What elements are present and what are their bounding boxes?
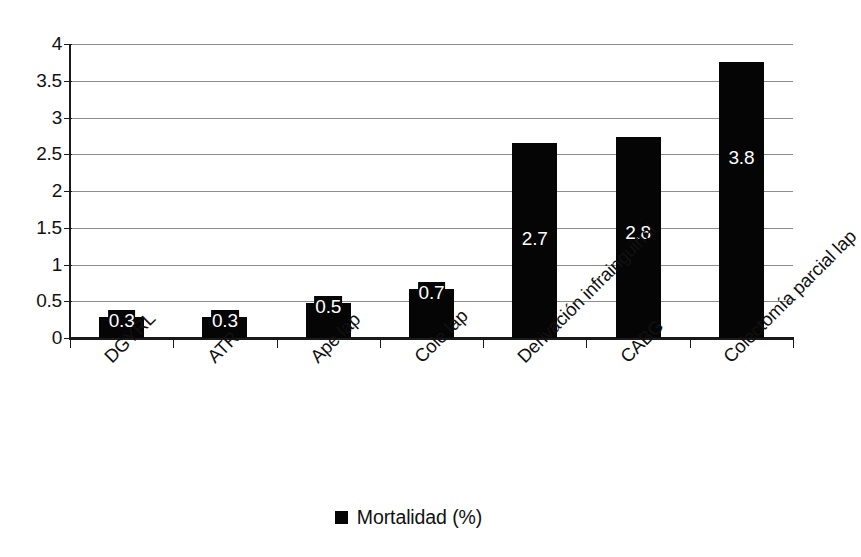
bar-value-label: 2.7 <box>522 228 548 250</box>
y-tick-mark <box>64 191 72 192</box>
y-tick-label: 1 <box>52 254 62 276</box>
x-tick-mark <box>277 339 278 348</box>
gridline <box>70 44 793 45</box>
bar <box>719 62 764 338</box>
gridline <box>70 265 793 266</box>
y-tick-label: 3 <box>52 107 62 129</box>
y-tick-label: 1.5 <box>36 217 62 239</box>
plot-area: 0.30.30.50.72.72.83.8 <box>70 44 793 338</box>
y-tick-label: 0 <box>52 327 62 349</box>
gridline <box>70 118 793 119</box>
bar-value-label: 0.5 <box>314 296 342 318</box>
y-tick-mark <box>64 44 72 45</box>
y-tick-label: 2 <box>52 180 62 202</box>
legend-label: Mortalidad (%) <box>357 506 482 529</box>
y-tick-mark <box>64 301 72 302</box>
x-tick-mark <box>586 339 587 348</box>
y-tick-label: 2.5 <box>36 143 62 165</box>
y-tick-label: 4 <box>52 33 62 55</box>
y-tick-mark <box>64 118 72 119</box>
x-tick-mark <box>690 339 691 348</box>
gridline <box>70 228 793 229</box>
y-tick-mark <box>64 265 72 266</box>
y-tick-mark <box>64 338 72 339</box>
legend-square-marker <box>335 511 348 524</box>
y-tick-mark <box>64 81 72 82</box>
x-tick-mark <box>793 339 794 348</box>
y-tick-mark <box>64 154 72 155</box>
bar-value-label: 3.8 <box>728 147 754 169</box>
y-axis-tick-labels: 43.532.521.510.50 <box>0 44 62 338</box>
y-tick-mark <box>64 228 72 229</box>
x-tick-mark <box>173 339 174 348</box>
bar-value-label: 0.7 <box>418 282 446 304</box>
x-tick-mark <box>70 339 71 348</box>
gridline <box>70 191 793 192</box>
gridline <box>70 154 793 155</box>
chart-legend: Mortalidad (%) <box>0 506 817 529</box>
x-tick-mark <box>380 339 381 348</box>
y-tick-label: 3.5 <box>36 70 62 92</box>
y-tick-label: 0.5 <box>36 290 62 312</box>
x-tick-mark <box>483 339 484 348</box>
gridline <box>70 81 793 82</box>
